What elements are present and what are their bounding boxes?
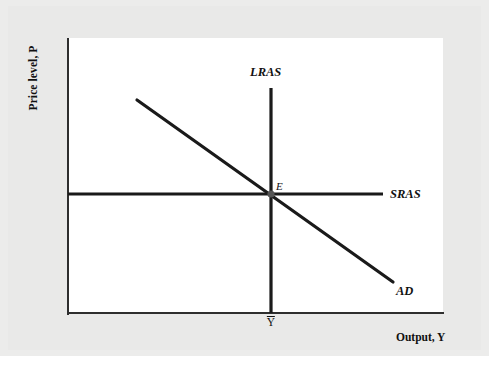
potential-output-symbol: Y	[267, 317, 275, 329]
lras-curve-label: LRAS	[250, 66, 281, 79]
ad-curve	[137, 100, 393, 282]
figure-screenshot: Price level, P Output, Y LRAS SRAS AD E …	[0, 0, 489, 368]
y-axis-label: Price level, P	[28, 46, 40, 111]
curves-layer	[0, 0, 489, 368]
potential-output-label: Y	[267, 317, 275, 329]
ad-curve-label: AD	[396, 285, 413, 298]
sras-curve-label: SRAS	[390, 188, 421, 201]
equilibrium-label: E	[276, 181, 283, 192]
x-axis-label: Output, Y	[396, 332, 445, 344]
equilibrium-dot	[267, 190, 274, 197]
